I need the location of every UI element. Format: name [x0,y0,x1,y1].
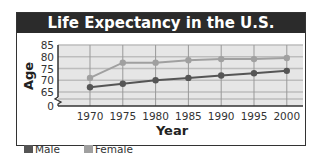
svg-text:75: 75 [41,63,54,75]
svg-text:70: 70 [41,74,54,86]
x-axis-label: Year [155,123,189,138]
svg-text:1990: 1990 [208,110,235,122]
data-point [284,55,290,61]
data-point [218,72,224,78]
female-swatch-icon [84,145,93,153]
svg-text:1980: 1980 [142,110,169,122]
legend: Male Female [24,143,133,155]
data-point [185,57,191,63]
data-point [218,56,224,62]
svg-text:1970: 1970 [77,110,104,122]
data-point [152,77,158,83]
data-point [251,56,257,62]
legend-label-male: Male [35,143,60,155]
svg-text:65: 65 [41,86,54,98]
data-point [87,84,93,90]
svg-text:0: 0 [47,100,54,112]
legend-label-female: Female [95,143,133,155]
legend-item-female: Female [84,143,133,155]
data-point [185,75,191,81]
svg-text:2000: 2000 [273,110,300,122]
data-point [284,68,290,74]
legend-item-male: Male [24,143,60,155]
data-point [251,70,257,76]
data-point [87,75,93,81]
svg-text:1985: 1985 [175,110,202,122]
data-point [120,59,126,65]
line-chart: 85807570650Age19701975198019851990199520… [0,0,314,167]
male-swatch-icon [24,145,33,153]
svg-text:1995: 1995 [241,110,268,122]
data-point [152,59,158,65]
svg-text:80: 80 [41,51,54,63]
svg-text:1975: 1975 [109,110,136,122]
y-axis-label: Age [21,62,36,90]
svg-text:85: 85 [41,39,54,51]
data-point [120,81,126,87]
